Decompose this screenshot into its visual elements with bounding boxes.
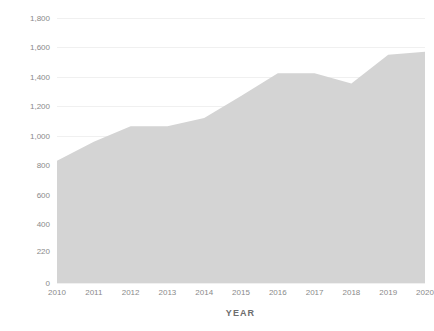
y-tick-label: 1,000 — [8, 131, 50, 140]
x-tick-label: 2020 — [416, 288, 434, 297]
gridline — [57, 283, 425, 284]
y-tick-label: 400 — [8, 220, 50, 229]
y-tick-label: 1,800 — [8, 14, 50, 23]
y-tick-label: 1,400 — [8, 72, 50, 81]
y-axis-ticks: 1,8001,6001,4001,2001,0008006004002200 — [0, 18, 426, 283]
x-axis-ticks: 2010201120122013201420152016201720182019… — [57, 288, 425, 302]
x-tick-label: 2012 — [122, 288, 140, 297]
y-tick-label: 0 — [8, 279, 50, 288]
y-tick-label: 800 — [8, 161, 50, 170]
x-tick-label: 2011 — [85, 288, 102, 297]
x-tick-label: 2016 — [269, 288, 287, 297]
x-tick-label: 2010 — [48, 288, 66, 297]
y-tick-label: 1,600 — [8, 43, 50, 52]
x-tick-label: 2015 — [232, 288, 250, 297]
x-tick-label: 2019 — [379, 288, 397, 297]
y-tick-label: 1,200 — [8, 102, 50, 111]
x-tick-label: 2014 — [195, 288, 213, 297]
y-tick-label: 220 — [8, 246, 50, 255]
y-tick-label: 600 — [8, 190, 50, 199]
x-axis-title: YEAR — [55, 308, 426, 318]
x-tick-label: 2013 — [158, 288, 176, 297]
x-tick-label: 2018 — [342, 288, 360, 297]
x-tick-label: 2017 — [306, 288, 324, 297]
